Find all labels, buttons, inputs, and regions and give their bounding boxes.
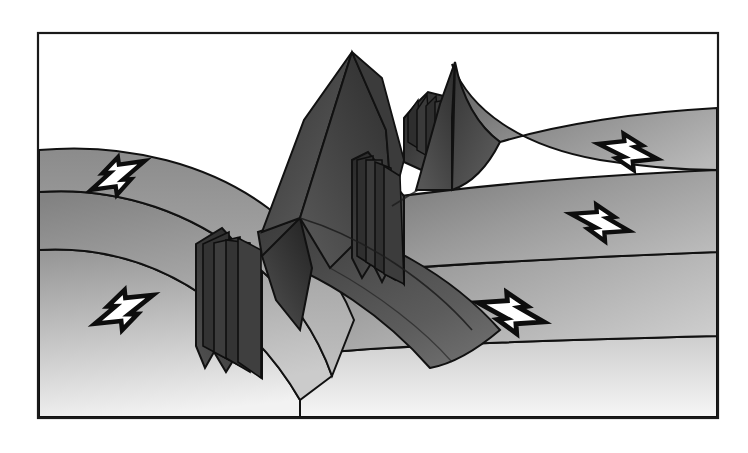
illustration-content [39,34,717,417]
geological-cross-section-illustration: Convergent compression of layered crust … [0,0,748,453]
fold-pleat-l4 [238,238,261,378]
fold-zone-left [196,228,262,378]
fold-pleat-c4 [384,166,404,284]
figure-root: Convergent compression of layered crust … [0,0,748,453]
